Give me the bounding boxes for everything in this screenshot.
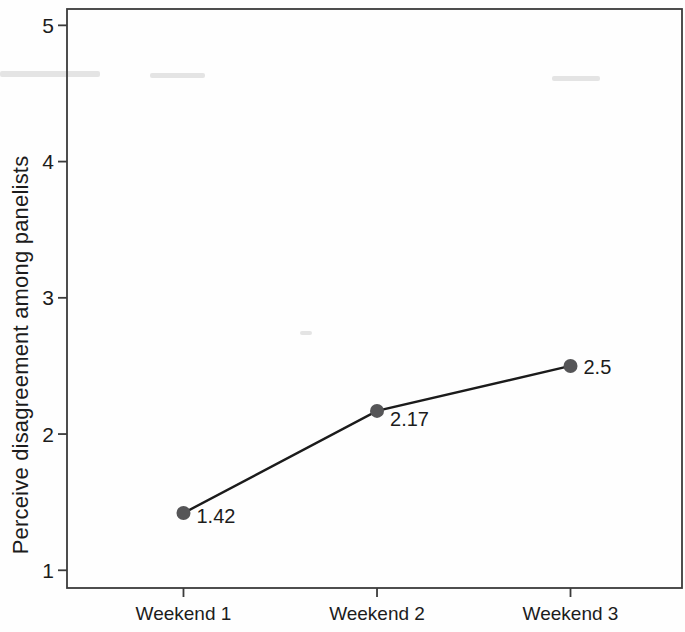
data-point <box>176 506 190 520</box>
scan-artifact <box>0 71 100 77</box>
y-tick-label: 4 <box>42 150 54 173</box>
x-tick-label: Weekend 3 <box>523 603 619 624</box>
y-tick-label: 3 <box>42 286 54 309</box>
y-tick-label: 2 <box>42 423 54 446</box>
y-tick-label: 5 <box>42 14 54 37</box>
data-point <box>564 359 578 373</box>
y-axis-title: Perceive disagreement among panelists <box>8 156 34 555</box>
line-chart-svg: 12345Weekend 1Weekend 2Weekend 31.422.17… <box>0 0 685 632</box>
data-point-label: 2.5 <box>584 356 612 378</box>
y-tick-label: 1 <box>42 559 54 582</box>
x-tick-label: Weekend 2 <box>329 603 425 624</box>
data-point-label: 2.17 <box>390 408 429 430</box>
scan-artifact <box>552 76 600 81</box>
scan-artifact <box>300 331 312 335</box>
line-chart-figure: 12345Weekend 1Weekend 2Weekend 31.422.17… <box>0 0 685 632</box>
data-line <box>183 366 570 513</box>
data-point <box>370 404 384 418</box>
plot-frame <box>67 9 682 588</box>
data-point-label: 1.42 <box>196 505 235 527</box>
x-tick-label: Weekend 1 <box>136 603 232 624</box>
scan-artifact <box>150 73 205 78</box>
